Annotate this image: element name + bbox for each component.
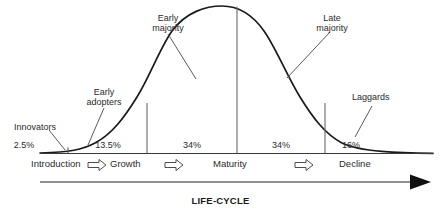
leader-line-innovators [49,130,65,150]
adopter-label-late-majority-line2: majority [316,23,348,33]
leader-line-late-majority [287,32,330,78]
adopter-label-early-majority: Early majority [140,13,196,33]
adopter-label-late-majority-line1: Late [323,13,341,23]
percentage-label-early-adopters: 13.5% [90,140,126,150]
right-arrow-outline-icon-3 [295,160,313,171]
stage-label-maturity: Maturity [213,159,247,170]
stage-label-introduction: Introduction [31,159,81,170]
leader-line-early-majority [168,34,196,79]
adopter-label-early-majority-line2: majority [152,23,184,33]
diagram-canvas: Innovators Early adopters Early majority… [0,0,441,219]
right-arrow-solid-icon [410,175,431,190]
adopter-label-laggards: Laggards [352,92,390,102]
lifecycle-bell-curve-graphic [0,0,441,219]
adopter-label-innovators: Innovators [14,122,56,132]
percentage-label-late-majority: 34% [263,140,299,150]
percentage-label-laggards: 16% [333,140,369,150]
right-arrow-outline-icon-2 [165,160,183,171]
stage-label-decline: Decline [339,159,371,170]
adopter-label-early-adopters-line1: Early [94,87,115,97]
adopter-label-early-adopters-line2: adopters [86,97,121,107]
adopter-label-early-adopters: Early adopters [76,87,132,107]
adopter-label-early-majority-line1: Early [158,13,179,23]
adopter-label-late-majority: Late majority [304,13,360,33]
right-arrow-outline-icon-1 [88,160,106,171]
leader-line-laggards [355,106,372,137]
percentage-label-early-majority: 34% [174,140,210,150]
axis-title-lifecycle: LIFE-CYCLE [0,196,441,207]
percentage-label-innovators: 2.5% [8,140,40,150]
stage-label-growth: Growth [110,159,141,170]
